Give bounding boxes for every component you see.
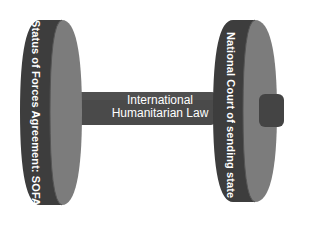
right-weight-label: National Court of sending state (221, 32, 237, 182)
right-hub (259, 94, 284, 127)
bar-label-line2: Humanitarian Law (100, 107, 220, 120)
left-weight-label: Status of Forces Agreement: SOFA (28, 26, 44, 201)
bar-label: International Humanitarian Law (100, 94, 220, 120)
